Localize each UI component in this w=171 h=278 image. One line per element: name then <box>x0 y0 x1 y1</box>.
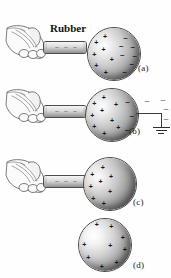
escaping-charge-1: – <box>145 97 149 105</box>
sphere-d: + + + + + + + + + <box>78 218 132 272</box>
panel-label-b: (b) <box>129 126 140 136</box>
ground-wire-vertical <box>161 113 162 127</box>
escaping-charge-3: – <box>164 105 168 113</box>
rubber-rod-a: – – – <box>43 41 87 54</box>
panel-label-d: (d) <box>133 260 144 270</box>
panel-b: – – – + + + + + + + + + – – – – – – – <box>0 70 171 142</box>
rubber-rod-b: – – – <box>43 105 87 118</box>
escaping-charge-4: – <box>164 115 168 123</box>
rubber-rod-c: – – – <box>43 175 87 188</box>
ground-bar-1 <box>153 127 170 128</box>
panel-label-c: (c) <box>133 197 144 207</box>
panel-a: Rubber <box>0 0 171 78</box>
escaping-charge-2: – <box>161 96 165 104</box>
ground-bar-3 <box>158 133 164 134</box>
panel-c: – – – + + + + + + + + (c) <box>0 144 171 212</box>
ground-wire <box>136 113 162 114</box>
ground-bar-2 <box>156 130 167 131</box>
panel-d: + + + + + + + + + (d) <box>0 212 171 278</box>
sphere-c: + + + + + + + + <box>83 157 137 211</box>
induction-figure: Rubber <box>0 0 171 278</box>
